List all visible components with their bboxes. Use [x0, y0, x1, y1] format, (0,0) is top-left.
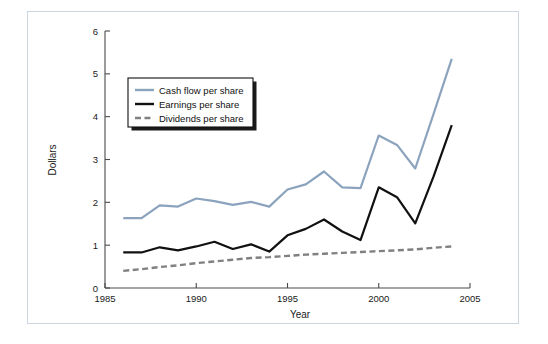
x-axis-tick-labels: 19851990199520002005 — [94, 293, 480, 304]
x-tick-label: 1985 — [94, 293, 115, 304]
x-tick-label: 1995 — [277, 293, 298, 304]
chart-legend: Cash flow per shareEarnings per shareDiv… — [128, 78, 257, 131]
y-axis-tick-labels: 0123456 — [93, 26, 98, 294]
legend-label-dividends-per-share: Dividends per share — [159, 113, 244, 124]
legend-label-cash-flow-per-share: Cash flow per share — [159, 85, 243, 96]
x-axis-title: Year — [290, 309, 311, 320]
figure-container: 0123456 19851990199520002005 Dollars Yea… — [0, 0, 548, 344]
legend-label-earnings-per-share: Earnings per share — [159, 99, 239, 110]
y-tick-label: 3 — [93, 154, 98, 165]
y-axis-title: Dollars — [47, 144, 58, 175]
y-tick-label: 4 — [93, 111, 98, 122]
axis-group — [105, 31, 470, 288]
y-tick-label: 1 — [93, 240, 98, 251]
y-tick-label: 5 — [93, 68, 98, 79]
y-tick-label: 0 — [93, 283, 98, 294]
line-chart: 0123456 19851990199520002005 Dollars Yea… — [0, 0, 548, 344]
x-axis-ticks — [105, 283, 470, 288]
x-tick-label: 1990 — [186, 293, 207, 304]
y-tick-label: 6 — [93, 26, 98, 37]
x-tick-label: 2005 — [459, 293, 480, 304]
x-tick-label: 2000 — [368, 293, 389, 304]
y-axis-ticks — [105, 31, 110, 288]
y-tick-label: 2 — [93, 197, 98, 208]
